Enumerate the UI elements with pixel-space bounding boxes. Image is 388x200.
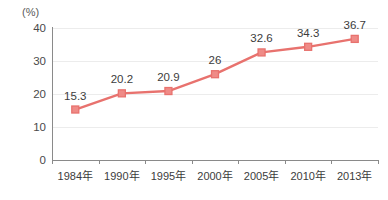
data-point-label: 20.2: [111, 73, 133, 85]
x-axis-tick-mark: [238, 160, 239, 164]
y-axis-tick-label: 30: [33, 55, 46, 67]
y-axis-tick-label: 0: [40, 154, 46, 166]
y-axis-tick-label: 20: [33, 88, 46, 100]
y-axis-tick-label: 40: [33, 22, 46, 34]
x-axis-tick-mark: [331, 160, 332, 164]
y-axis-tick-label: 10: [33, 121, 46, 133]
data-point-marker: [258, 49, 265, 56]
data-point-marker: [165, 88, 172, 95]
x-axis-tick-label: 1990年: [104, 167, 139, 183]
x-axis-tick-label: 2000年: [197, 167, 232, 183]
data-point-marker: [305, 43, 312, 50]
data-point-marker: [72, 106, 79, 113]
data-point-label: 34.3: [297, 27, 319, 39]
data-point-label: 20.9: [157, 71, 179, 83]
x-axis-tick-mark: [99, 160, 100, 164]
x-axis-tick-mark: [145, 160, 146, 164]
data-point-marker: [212, 71, 219, 78]
x-axis-tick-label: 1995年: [151, 167, 186, 183]
data-series-line: [52, 28, 378, 160]
x-axis-tick-label: 1984年: [58, 167, 93, 183]
x-axis-tick-label: 2005年: [244, 167, 279, 183]
x-axis-tick-label: 2013年: [337, 167, 372, 183]
x-axis-tick-mark: [192, 160, 193, 164]
data-point-marker: [118, 90, 125, 97]
x-axis-line: [52, 160, 378, 161]
x-axis-tick-mark: [52, 160, 53, 164]
data-point-label: 32.6: [250, 32, 272, 44]
data-point-label: 15.3: [64, 90, 86, 102]
line-chart: (%) 010203040 1984年1990年1995年2000年2005年2…: [0, 0, 388, 200]
data-point-marker: [351, 35, 358, 42]
x-axis-tick-mark: [378, 160, 379, 164]
data-point-label: 36.7: [344, 19, 366, 31]
x-axis-tick-mark: [285, 160, 286, 164]
data-point-label: 26: [209, 54, 222, 66]
y-axis-unit-label: (%): [22, 6, 39, 18]
x-axis-tick-label: 2010年: [290, 167, 325, 183]
